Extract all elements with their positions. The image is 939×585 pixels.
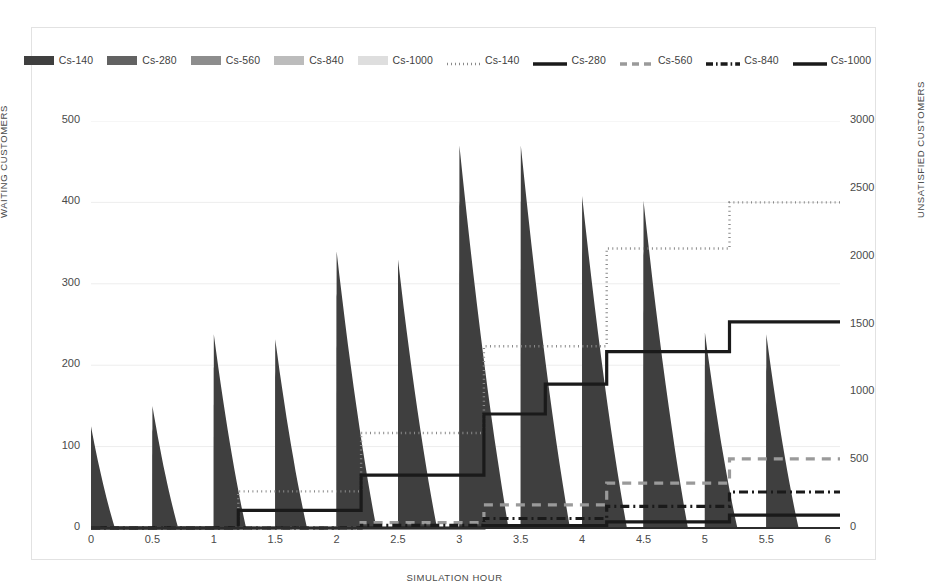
legend-line-icon: [793, 55, 827, 65]
legend-label: Cs-1000: [393, 54, 433, 66]
legend-item-cs-840-area[interactable]: Cs-840: [274, 54, 343, 66]
plot-area: [91, 121, 840, 528]
x-axis-ticks: 00.511.522.533.544.555.56: [91, 533, 840, 553]
x-tick: 1: [194, 533, 234, 545]
y-tick-secondary: 1500: [850, 317, 890, 329]
y-tick-secondary: 3000: [850, 113, 890, 125]
legend-item-cs-560-area[interactable]: Cs-560: [191, 54, 260, 66]
y-tick-secondary: 1000: [850, 384, 890, 396]
legend-item-cs-840-dashdot[interactable]: Cs-840: [706, 54, 778, 66]
y-tick-secondary: 500: [850, 452, 890, 464]
legend-line-icon: [447, 55, 481, 65]
y-tick-primary: 400: [46, 194, 80, 206]
legend-swatch-icon: [24, 56, 54, 65]
y-axis-label-secondary: UNSATISFIED CUSTOMERS: [915, 81, 926, 218]
x-tick: 2.5: [378, 533, 418, 545]
legend-swatch-icon: [107, 56, 137, 65]
x-axis-label: SIMULATION HOUR: [32, 572, 877, 583]
y-tick-primary: 100: [46, 439, 80, 451]
x-tick: 3.5: [501, 533, 541, 545]
legend-swatch-icon: [274, 56, 304, 65]
legend-label: Cs-840: [309, 54, 343, 66]
y-axis-label-primary: WAITING CUSTOMERS: [0, 105, 9, 218]
legend-item-cs-1000-area[interactable]: Cs-1000: [358, 54, 433, 66]
legend-item-cs-280-solid[interactable]: Cs-280: [533, 54, 605, 66]
y-tick-secondary: 0: [850, 520, 890, 532]
x-tick: 2: [317, 533, 357, 545]
legend-label: Cs-1000: [831, 54, 871, 66]
y-tick-secondary: 2500: [850, 181, 890, 193]
legend-label: Cs-140: [59, 54, 93, 66]
chart-frame: Cs-140Cs-280Cs-560Cs-840Cs-1000Cs-140Cs-…: [31, 27, 876, 560]
legend-item-cs-140-area[interactable]: Cs-140: [24, 54, 93, 66]
y-tick-primary: 0: [46, 520, 80, 532]
legend-label: Cs-560: [226, 54, 260, 66]
x-tick: 3: [439, 533, 479, 545]
legend-label: Cs-280: [142, 54, 176, 66]
x-tick: 0.5: [132, 533, 172, 545]
legend-item-cs-1000-solid[interactable]: Cs-1000: [793, 54, 871, 66]
y-tick-secondary: 2000: [850, 249, 890, 261]
legend-label: Cs-560: [658, 54, 692, 66]
x-tick: 1.5: [255, 533, 295, 545]
legend-label: Cs-840: [744, 54, 778, 66]
chart-canvas: [91, 121, 840, 530]
y-tick-primary: 200: [46, 357, 80, 369]
legend-item-cs-280-area[interactable]: Cs-280: [107, 54, 176, 66]
x-tick: 4.5: [624, 533, 664, 545]
x-tick: 5: [685, 533, 725, 545]
legend-line-icon: [620, 55, 654, 65]
legend-line-icon: [706, 55, 740, 65]
legend-item-cs-560-dashed[interactable]: Cs-560: [620, 54, 692, 66]
legend-label: Cs-140: [485, 54, 519, 66]
x-tick: 4: [562, 533, 602, 545]
y-tick-primary: 300: [46, 276, 80, 288]
y-axis-primary-ticks: 0100200300400500: [46, 121, 80, 528]
y-tick-primary: 500: [46, 113, 80, 125]
legend-label: Cs-280: [571, 54, 605, 66]
legend-swatch-icon: [358, 56, 388, 65]
y-axis-secondary-ticks: 050010001500200025003000: [850, 121, 890, 528]
chart-legend: Cs-140Cs-280Cs-560Cs-840Cs-1000Cs-140Cs-…: [32, 48, 877, 72]
x-tick: 5.5: [746, 533, 786, 545]
x-tick: 0: [71, 533, 111, 545]
legend-swatch-icon: [191, 56, 221, 65]
x-tick: 6: [808, 533, 848, 545]
legend-item-cs-140-dotted[interactable]: Cs-140: [447, 54, 519, 66]
legend-line-icon: [533, 55, 567, 65]
